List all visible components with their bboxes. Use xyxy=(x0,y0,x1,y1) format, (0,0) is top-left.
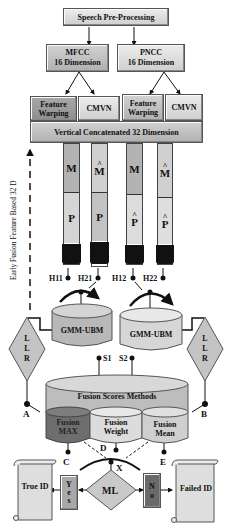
pncc-dimension: 16 Dimension xyxy=(128,58,174,68)
cmvn-left-label: CMVN xyxy=(87,104,112,113)
tube-cap xyxy=(90,242,109,264)
early-fusion-label: Early Fusion Feature Based 32 D xyxy=(9,150,18,280)
s2-label: S2 xyxy=(119,354,127,363)
yes-box: Yes xyxy=(60,475,78,510)
point-e: E xyxy=(160,457,166,467)
cmvn-right: CMVN xyxy=(165,94,203,121)
point-c: C xyxy=(63,457,70,467)
speech-preprocessing-box: Speech Pre-Processing xyxy=(63,8,169,26)
llr-right: LLR xyxy=(200,334,210,364)
feature-warping-right-label: Feature Warping xyxy=(123,99,163,117)
gmm-ubm-left: GMM-UBM xyxy=(52,326,112,335)
feature-warping-right: Feature Warping xyxy=(122,94,164,121)
llr-letter: R xyxy=(24,354,30,364)
point-a: A xyxy=(23,409,30,419)
ml-decision: ML xyxy=(102,485,118,496)
mfcc-dimension: 16 Dimension xyxy=(54,58,100,68)
true-id-scroll: True ID xyxy=(18,482,52,491)
supervector-tube-4: ^M ^P xyxy=(157,143,173,265)
tube-m-label: M xyxy=(66,164,76,172)
yes-letter: s xyxy=(67,497,70,505)
mfcc-label: MFCC xyxy=(65,48,89,58)
llr-letter: L xyxy=(24,344,29,354)
gmm-ubm-right: GMM-UBM xyxy=(120,330,182,339)
llr-left: LLR xyxy=(22,334,32,364)
failed-id-scroll: Failed ID xyxy=(178,484,214,493)
supervector-tube-1: M P xyxy=(63,143,80,265)
supervector-tube-2: ^M P xyxy=(91,143,108,267)
feature-warping-left-label: Feature Warping xyxy=(31,100,76,118)
no-letter: o xyxy=(150,491,154,500)
tube-p-label: P xyxy=(162,220,169,228)
pncc-label: PNCC xyxy=(140,48,162,58)
tube-cap xyxy=(125,245,144,264)
fusion-mean: Fusion Mean xyxy=(146,420,184,438)
no-box: No xyxy=(143,473,161,508)
h11-label: H11 xyxy=(49,274,63,283)
cmvn-left: CMVN xyxy=(78,96,120,121)
fusion-weight: Fusion Weight xyxy=(94,418,138,436)
connector-layer xyxy=(0,0,232,529)
supervector-tube-3: M ^P xyxy=(126,143,143,265)
tube-m-label: M xyxy=(94,167,104,175)
pncc-box: PNCC16 Dimension xyxy=(117,44,185,72)
vertical-concatenation-label: Vertical Concatenated 32 Dimension xyxy=(54,128,178,137)
tube-cap xyxy=(62,244,81,264)
tube-p-label: P xyxy=(131,218,138,226)
llr-letter: L xyxy=(202,334,207,344)
cmvn-right-label: CMVN xyxy=(172,103,197,112)
h12-label: H12 xyxy=(112,274,126,283)
llr-letter: R xyxy=(202,354,208,364)
point-b: B xyxy=(201,409,207,419)
point-x: X xyxy=(116,463,123,473)
tube-m-label: M xyxy=(160,169,170,177)
speech-preprocessing-label: Speech Pre-Processing xyxy=(78,13,155,22)
mfcc-box: MFCC16 Dimension xyxy=(46,44,109,72)
h22-label: H22 xyxy=(143,274,157,283)
fusion-scores-title: Fusion Scores Methods xyxy=(46,392,188,401)
feature-warping-left: Feature Warping xyxy=(30,96,77,121)
tube-m-label: M xyxy=(129,165,139,173)
no-letter: N xyxy=(149,482,155,491)
point-d: D xyxy=(100,443,107,453)
llr-letter: L xyxy=(24,334,29,344)
fusion-max: Fusion MAX xyxy=(48,418,88,436)
tube-p-label: P xyxy=(68,214,75,222)
vertical-concatenation-box: Vertical Concatenated 32 Dimension xyxy=(30,121,203,143)
h21-label: H21 xyxy=(78,274,92,283)
s1-label: S1 xyxy=(103,354,111,363)
tube-cap xyxy=(156,245,174,264)
llr-letter: L xyxy=(202,344,207,354)
tube-p-label: P xyxy=(96,213,103,221)
